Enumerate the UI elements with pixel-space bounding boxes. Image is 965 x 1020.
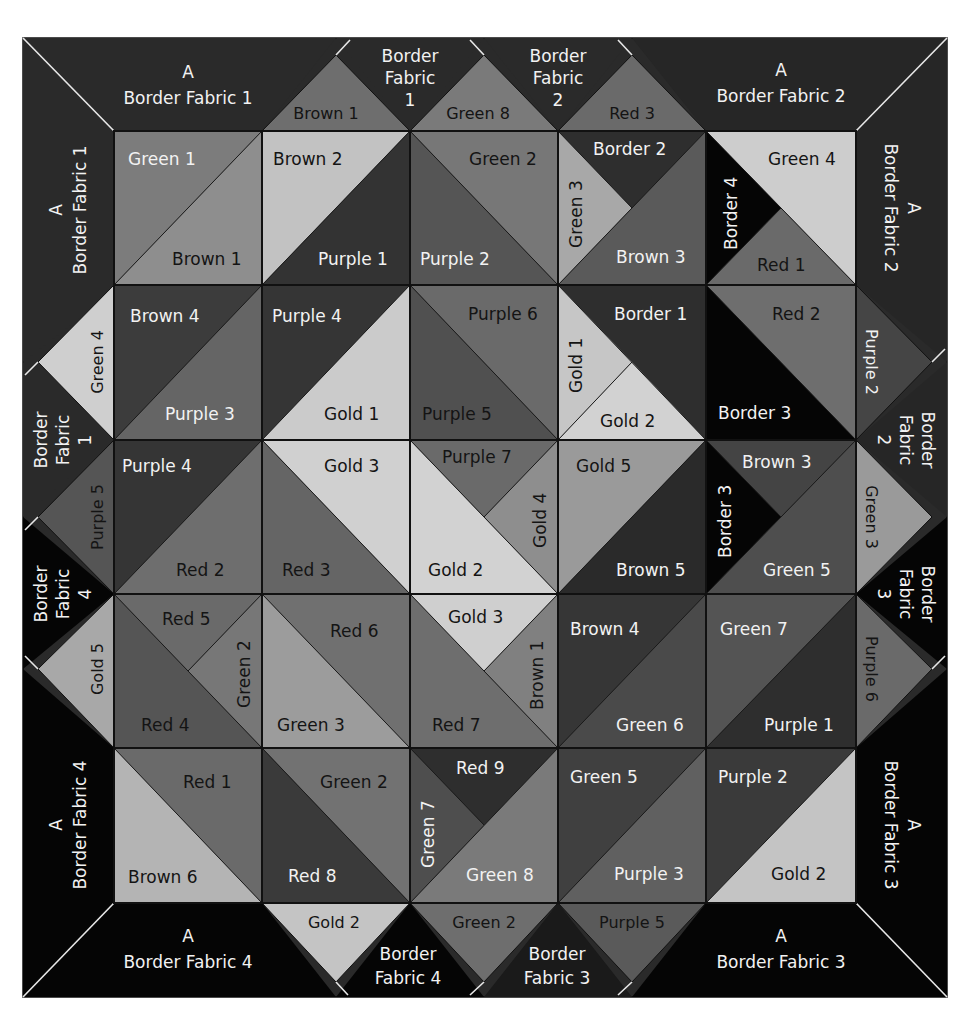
corner-bottom-right-h-line1: A [775,926,787,946]
left-gap-1-l1: Border [31,411,51,468]
corner-bottom-left-v-line1: A [46,819,66,831]
setting-top-1-label: Brown 1 [293,104,358,123]
r5c4-b: Purple 3 [614,864,684,884]
r5c3-top: Red 9 [456,758,505,778]
setting-bottom-3-label: Purple 5 [599,913,665,932]
setting-right-2-label: Green 3 [862,485,881,549]
top-gap-2-l3: 2 [553,90,564,110]
r1c4-left: Green 3 [566,180,586,248]
r3c3-top: Purple 7 [442,447,512,467]
left-gap-2-l3: 4 [75,589,95,600]
r5c3-bottom: Green 8 [466,865,534,885]
top-gap-1-l3: 1 [405,90,416,110]
corner-top-right-v-line2: Border Fabric 2 [881,143,901,272]
r3c5-top: Brown 3 [742,452,812,472]
r1c5-left: Border 4 [721,177,741,250]
r2c3-a: Purple 6 [468,304,538,324]
corner-top-left-v-line1: A [46,204,66,216]
r4c1-right: Green 2 [234,640,254,708]
setting-left-3-label: Gold 5 [88,643,107,695]
left-gap-2-l1: Border [31,565,51,622]
bottom-gap-1-l1: Border [380,944,437,964]
r1c5-top: Green 4 [768,149,836,169]
r5c2-b: Red 8 [288,866,337,886]
corner-bottom-left-v-line2: Border Fabric 4 [70,760,90,889]
r3c2-b: Red 3 [282,560,331,580]
r3c2-a: Gold 3 [324,456,379,476]
top-gap-1-l2: Fabric [385,68,436,88]
right-gap-1-l3: 2 [874,435,894,446]
r1c3-b: Purple 2 [420,249,490,269]
r2c2-b: Gold 1 [324,404,379,424]
r5c5-b: Gold 2 [771,864,826,884]
setting-right-1-label: Purple 2 [862,329,881,395]
r5c5-a: Purple 2 [718,767,788,787]
r5c2-a: Green 2 [320,772,388,792]
r2c1-b: Purple 3 [165,404,235,424]
corner-bottom-right-v-line1: A [904,819,924,831]
right-gap-2-l3: 3 [874,589,894,600]
setting-bottom-2-label: Green 2 [452,913,516,932]
corner-top-left-v-line2: Border Fabric 1 [70,145,90,274]
left-gap-1-l3: 1 [75,435,95,446]
r3c5-bottom: Green 5 [763,560,831,580]
r4c4-a: Brown 4 [570,619,640,639]
setting-top-3-label: Red 3 [609,104,655,123]
right-gap-1-l2: Fabric [896,415,916,466]
corner-top-left-h-line1: A [182,62,194,82]
r5c1-a: Red 1 [183,772,232,792]
quilt-diagram: A Border Fabric 1 A Border Fabric 1 A Bo… [0,0,965,1020]
r1c2-a: Brown 2 [273,149,343,169]
r1c4-bottom: Brown 3 [616,247,686,267]
r5c4-a: Green 5 [570,767,638,787]
r4c4-b: Green 6 [616,715,684,735]
corner-bottom-right-h-line2: Border Fabric 3 [716,952,845,972]
r3c3-bottom: Gold 2 [428,560,483,580]
top-gap-2-l1: Border [530,46,587,66]
top-gap-2-l2: Fabric [533,68,584,88]
setting-bottom-1-label: Gold 2 [308,913,360,932]
bottom-gap-2-l2: Fabric 3 [524,968,591,988]
r3c3-right: Gold 4 [530,493,550,548]
corner-top-right-h-line1: A [775,60,787,80]
r3c4-b: Brown 5 [616,560,686,580]
r1c5-bottom: Red 1 [757,255,806,275]
r4c2-a: Red 6 [330,621,379,641]
r2c4-bottom: Gold 2 [600,411,655,431]
setting-left-1-label: Green 4 [88,330,107,394]
r1c2-b: Purple 1 [318,249,388,269]
right-gap-2-l2: Fabric [896,569,916,620]
corner-bottom-left-h-line1: A [182,926,194,946]
r2c4-left: Gold 1 [566,338,586,393]
r3c1-b: Red 2 [176,560,225,580]
r2c5-b: Border 3 [718,403,791,423]
r3c5-left: Border 3 [715,485,735,558]
r1c1-a: Green 1 [128,149,196,169]
corner-bottom-left-h-line2: Border Fabric 4 [123,952,252,972]
r2c3-b: Purple 5 [422,404,492,424]
r2c2-a: Purple 4 [272,306,342,326]
left-gap-1-l2: Fabric [53,415,73,466]
r4c2-b: Green 3 [277,715,345,735]
r3c1-a: Purple 4 [122,456,192,476]
r1c3-a: Green 2 [469,149,537,169]
r4c1-top: Red 5 [162,609,211,629]
r2c4-top: Border 1 [614,304,687,324]
r4c5-b: Purple 1 [764,715,834,735]
r1c1-b: Brown 1 [172,249,242,269]
r4c3-top: Gold 3 [448,607,503,627]
r3c4-a: Gold 5 [576,456,631,476]
corner-top-right-h-line2: Border Fabric 2 [716,86,845,106]
r1c4-top: Border 2 [593,139,666,159]
right-gap-1-l1: Border [918,412,938,469]
r5c1-b: Brown 6 [128,867,198,887]
top-gap-1-l1: Border [382,46,439,66]
r2c5-a: Red 2 [772,304,821,324]
setting-right-3-label: Purple 6 [862,636,881,702]
r4c1-bottom: Red 4 [141,715,190,735]
setting-left-2-label: Purple 5 [88,484,107,550]
r4c5-a: Green 7 [720,619,788,639]
corner-top-left-h-line2: Border Fabric 1 [123,88,252,108]
right-gap-2-l1: Border [918,566,938,623]
setting-top-2-label: Green 8 [446,104,510,123]
